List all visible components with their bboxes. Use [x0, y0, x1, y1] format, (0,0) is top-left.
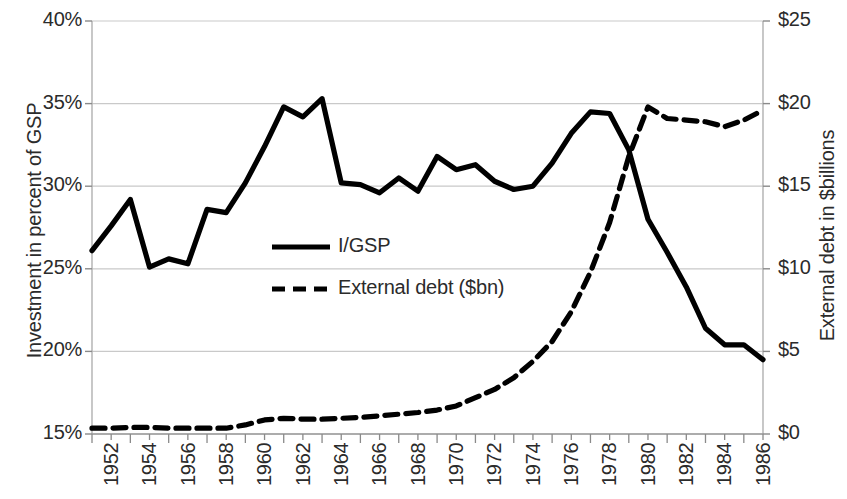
axis-lines	[92, 21, 763, 434]
legend-line-samples	[272, 247, 330, 289]
x-axis-tick-label: 1972	[483, 443, 506, 486]
y-axis-right-tick-label: $25	[778, 8, 847, 31]
x-axis-tick-label: 1978	[598, 443, 621, 486]
legend-label-external-debt: External debt ($bn)	[338, 276, 504, 299]
gridlines	[92, 21, 763, 434]
y-axis-left-tick-label: 25%	[12, 256, 82, 279]
x-axis-tick-label: 1974	[522, 443, 545, 486]
y-axis-right-tick-label: $5	[778, 338, 847, 361]
x-axis-tick-label: 1958	[215, 443, 238, 486]
data-series	[92, 99, 763, 429]
y-axis-right-tick-label: $15	[778, 173, 847, 196]
y-axis-right-tick-label: $20	[778, 91, 847, 114]
x-axis-ticks	[92, 434, 763, 443]
y-axis-left-tick-label: 40%	[12, 8, 82, 31]
series-line-igsp	[92, 99, 763, 360]
x-axis-tick-label: 1954	[138, 443, 161, 486]
x-axis-tick-label: 1962	[292, 443, 315, 486]
plot-area	[0, 0, 847, 499]
x-axis-tick-label: 1976	[560, 443, 583, 486]
y-axis-tick-marks	[85, 21, 770, 434]
x-axis-tick-label: 1966	[368, 443, 391, 486]
y-axis-left-tick-label: 15%	[12, 421, 82, 444]
x-axis-tick-label: 1964	[330, 443, 353, 486]
y-axis-right-tick-label: $0	[778, 421, 847, 444]
series-line-external-debt	[92, 107, 763, 428]
x-axis-tick-label: 1952	[100, 443, 123, 486]
x-axis-tick-label: 1968	[407, 443, 430, 486]
x-axis-tick-label: 1956	[177, 443, 200, 486]
x-axis-tick-label: 1986	[752, 443, 775, 486]
legend-label-igsp: I/GSP	[338, 234, 390, 257]
x-axis-tick-label: 1982	[675, 443, 698, 486]
x-axis-tick-label: 1970	[445, 443, 468, 486]
x-axis-tick-label: 1960	[253, 443, 276, 486]
y-axis-left-tick-label: 30%	[12, 173, 82, 196]
y-axis-right-tick-label: $10	[778, 256, 847, 279]
x-axis-tick-label: 1984	[713, 443, 736, 486]
x-axis-tick-label: 1980	[637, 443, 660, 486]
y-axis-left-tick-label: 20%	[12, 338, 82, 361]
chart-container: Investment in percent of GSP External de…	[0, 0, 847, 499]
y-axis-left-tick-label: 35%	[12, 91, 82, 114]
